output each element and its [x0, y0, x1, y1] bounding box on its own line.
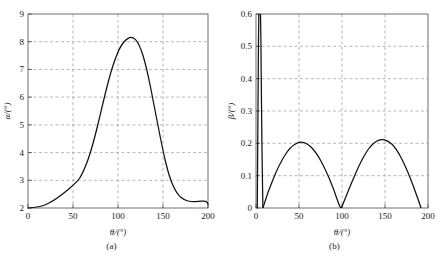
xaxis-label-b: θ/(°) — [334, 227, 351, 237]
ytick-a-3: 5 — [20, 120, 25, 130]
xtick-a-2: 100 — [111, 211, 125, 221]
xtick-b-2: 100 — [335, 211, 349, 221]
xtick-a-3: 150 — [156, 211, 170, 221]
ytick-a-5: 7 — [20, 64, 25, 74]
chart-panel-a: 0 50 100 150 200 2 3 4 5 6 7 8 9 θ/(°) α… — [0, 0, 223, 265]
ytick-a-4: 6 — [20, 92, 25, 102]
ytick-a-6: 8 — [20, 37, 25, 47]
plot-a-svg: 0 50 100 150 200 2 3 4 5 6 7 8 9 θ/(°) α… — [0, 0, 223, 240]
xticklabels-b: 0 50 100 150 200 — [254, 211, 436, 221]
gridlines-b — [256, 14, 428, 208]
yticklabels-b: 0 0.1 0.2 0.3 0.4 0.5 0.6 — [241, 9, 253, 213]
xticklabels-a: 0 50 100 150 200 — [26, 211, 216, 221]
ytick-b-4: 0.4 — [241, 74, 253, 84]
ytick-b-2: 0.2 — [241, 138, 252, 148]
xtick-a-4: 200 — [201, 211, 215, 221]
panel-sublabel-b: (b) — [223, 241, 446, 251]
ytick-a-1: 3 — [20, 175, 25, 185]
xtick-a-0: 0 — [26, 211, 31, 221]
yaxis-label-a: α/(°) — [2, 103, 12, 120]
xtick-b-1: 50 — [295, 211, 305, 221]
xaxis-label-a: θ/(°) — [110, 227, 127, 237]
xtick-a-1: 50 — [69, 211, 79, 221]
chart-panel-b: 0 50 100 150 200 0 0.1 0.2 0.3 0.4 0.5 0… — [223, 0, 446, 265]
xtick-b-4: 200 — [421, 211, 435, 221]
ytick-b-6: 0.6 — [241, 9, 253, 19]
ytick-b-1: 0.1 — [241, 171, 252, 181]
yticklabels-a: 2 3 4 5 6 7 8 9 — [20, 9, 25, 213]
figure-container: 0 50 100 150 200 2 3 4 5 6 7 8 9 θ/(°) α… — [0, 0, 446, 265]
panel-sublabel-a: (a) — [0, 241, 223, 251]
ytick-a-7: 9 — [20, 9, 25, 19]
gridlines-a — [28, 14, 208, 208]
data-curve-alpha — [28, 37, 208, 208]
data-curve-beta-spike — [257, 8, 263, 208]
xtick-b-0: 0 — [254, 211, 259, 221]
ytick-b-3: 0.3 — [241, 106, 253, 116]
ytick-b-0: 0 — [248, 203, 253, 213]
xtick-b-3: 150 — [378, 211, 392, 221]
ytick-b-5: 0.5 — [241, 41, 253, 51]
figure-caption — [0, 261, 446, 265]
plot-b-svg: 0 50 100 150 200 0 0.1 0.2 0.3 0.4 0.5 0… — [223, 0, 446, 240]
yaxis-label-b: β/(°) — [226, 103, 236, 121]
ytick-a-2: 4 — [20, 148, 25, 158]
ytick-a-0: 2 — [20, 203, 25, 213]
